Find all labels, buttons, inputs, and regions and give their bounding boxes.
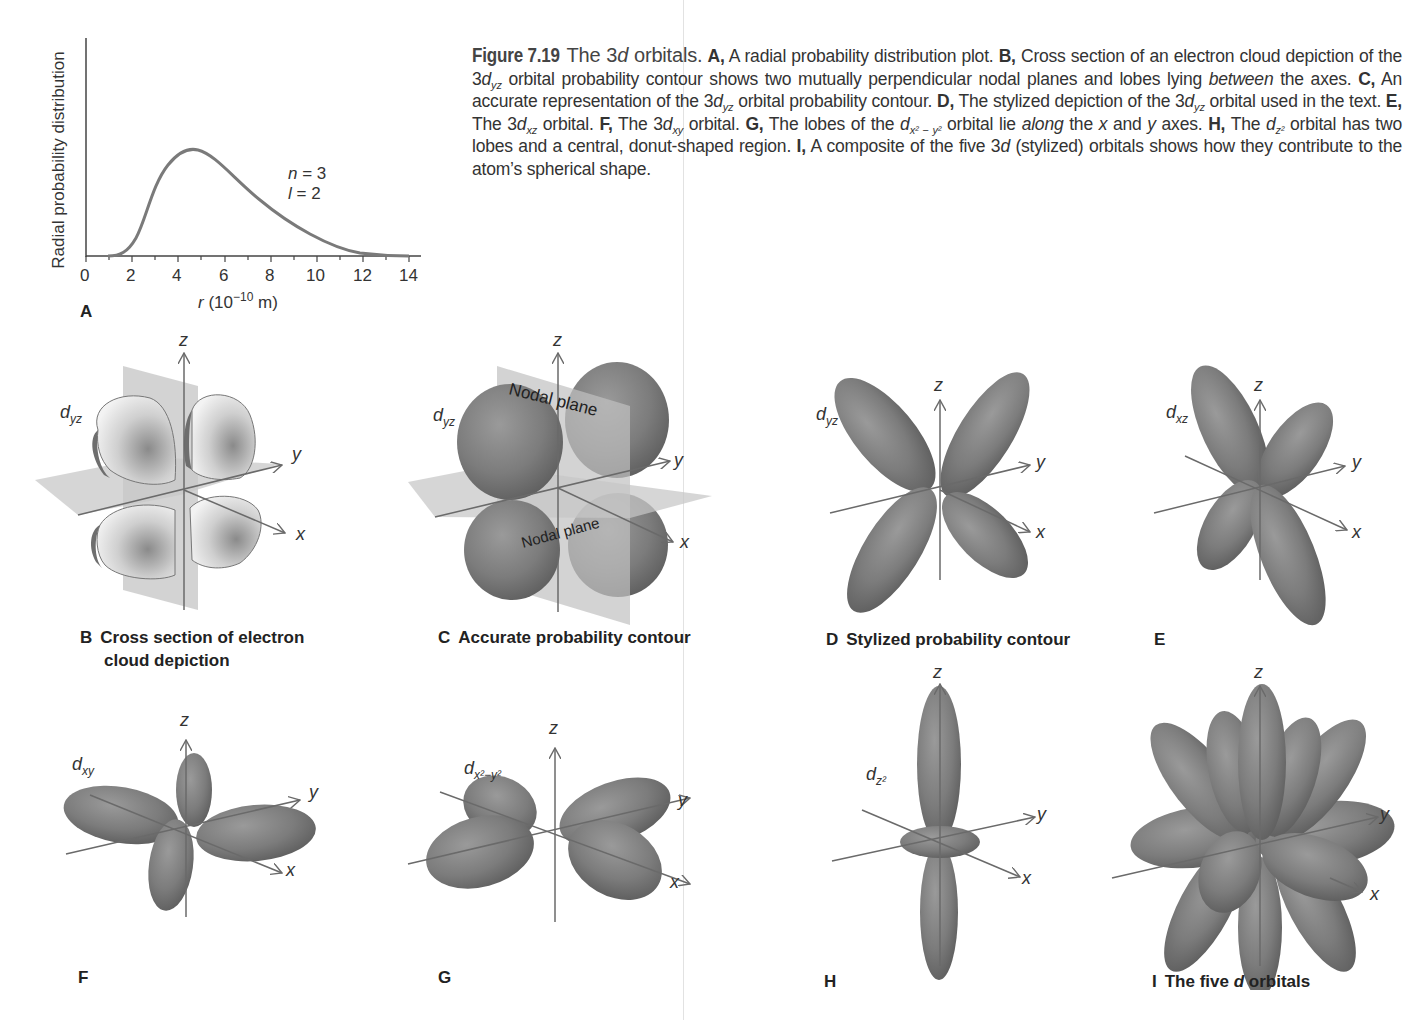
orbital-label-dx2-y2: dx²−y² — [464, 758, 501, 782]
orbital-label-dxz: dxz — [1166, 402, 1188, 426]
dyz-accurate-contour-diagram: Nodal plane Nodal plane — [390, 320, 790, 660]
x-axis-label: x — [1352, 522, 1361, 543]
z-axis-label: z — [553, 330, 562, 351]
z-axis-label: z — [180, 710, 189, 731]
five-d-orbitals-composite — [1100, 650, 1415, 990]
chart-ylabel: Radial probability distribution — [49, 45, 69, 275]
y-axis-label: y — [674, 450, 683, 471]
panel-c-accurate-contour: Nodal plane Nodal plane z y x dyz CAccur… — [390, 320, 790, 660]
dyz-stylized-diagram — [790, 360, 1120, 660]
panel-h-dz2: z y x dz² H — [790, 650, 1120, 1020]
panel-e-dxz: z y x dxz E — [1130, 360, 1415, 660]
panel-caption-f: F — [78, 968, 96, 988]
panel-g-dx2-y2: z y x dx²−y² G — [390, 690, 720, 1010]
orbital-label-dz2: dz² — [866, 764, 886, 788]
z-axis-label: z — [1254, 375, 1263, 396]
z-axis-label: z — [179, 330, 188, 351]
panel-a-radial-plot: Radial probability distribution 0 2 4 6 … — [0, 0, 440, 330]
y-axis-label: y — [309, 782, 318, 803]
panel-caption-e: E — [1154, 630, 1173, 650]
x-axis-label: x — [286, 860, 295, 881]
panel-caption-c: CAccurate probability contour — [438, 628, 691, 648]
figure-number: Figure 7.19 — [472, 44, 560, 67]
panel-d-stylized-dyz: z y x dyz DStylized probability contour — [790, 360, 1120, 660]
x-axis-label: x — [1036, 522, 1045, 543]
dxy-diagram — [0, 690, 360, 990]
orbital-label-dxy: dxy — [72, 754, 94, 778]
z-axis-label: z — [549, 718, 558, 739]
x-axis-label: x — [1370, 884, 1379, 905]
x-axis-label: x — [1022, 868, 1031, 889]
dz2-diagram — [790, 650, 1120, 990]
panel-f-dxy: z y x dxy F — [0, 690, 360, 1010]
x-axis-label: x — [296, 524, 305, 545]
panel-caption-g: G — [438, 968, 459, 988]
orbital-label-dyz: dyz — [816, 404, 838, 428]
z-axis-label: z — [934, 375, 943, 396]
panel-b-cross-section: z y x dyz BCross section of electronclou… — [0, 320, 400, 680]
panel-label-a: A — [80, 302, 92, 322]
y-axis-label: y — [1036, 452, 1045, 473]
orbital-label-dyz: dyz — [433, 405, 455, 429]
y-axis-label: y — [1380, 804, 1389, 825]
radial-curve — [108, 149, 409, 256]
chart-annotation: n = 3 l = 2 — [288, 164, 326, 204]
x-axis-label: x — [670, 872, 679, 893]
y-axis-label: y — [292, 444, 301, 465]
figure-caption: Figure 7.19 The 3d orbitals. A, A radial… — [472, 44, 1402, 180]
orbital-label-dyz: dyz — [60, 402, 82, 426]
panel-i-five-d-orbitals: z y x IThe five d orbitals — [1100, 650, 1415, 1020]
x-axis-label: x — [680, 532, 689, 553]
y-axis-label: y — [1037, 804, 1046, 825]
panel-caption-b: BCross section of electroncloud depictio… — [80, 626, 304, 672]
z-axis-label: z — [1254, 662, 1263, 683]
panel-caption-d: DStylized probability contour — [826, 630, 1070, 650]
figure-title: The 3d orbitals. — [567, 44, 703, 66]
panel-caption-i: IThe five d orbitals — [1152, 972, 1310, 992]
y-axis-label: y — [678, 790, 687, 811]
y-axis-label: y — [1352, 452, 1361, 473]
chart-xlabel: r (10−10 m) — [198, 290, 278, 313]
z-axis-label: z — [933, 662, 942, 683]
panel-caption-h: H — [824, 972, 844, 992]
